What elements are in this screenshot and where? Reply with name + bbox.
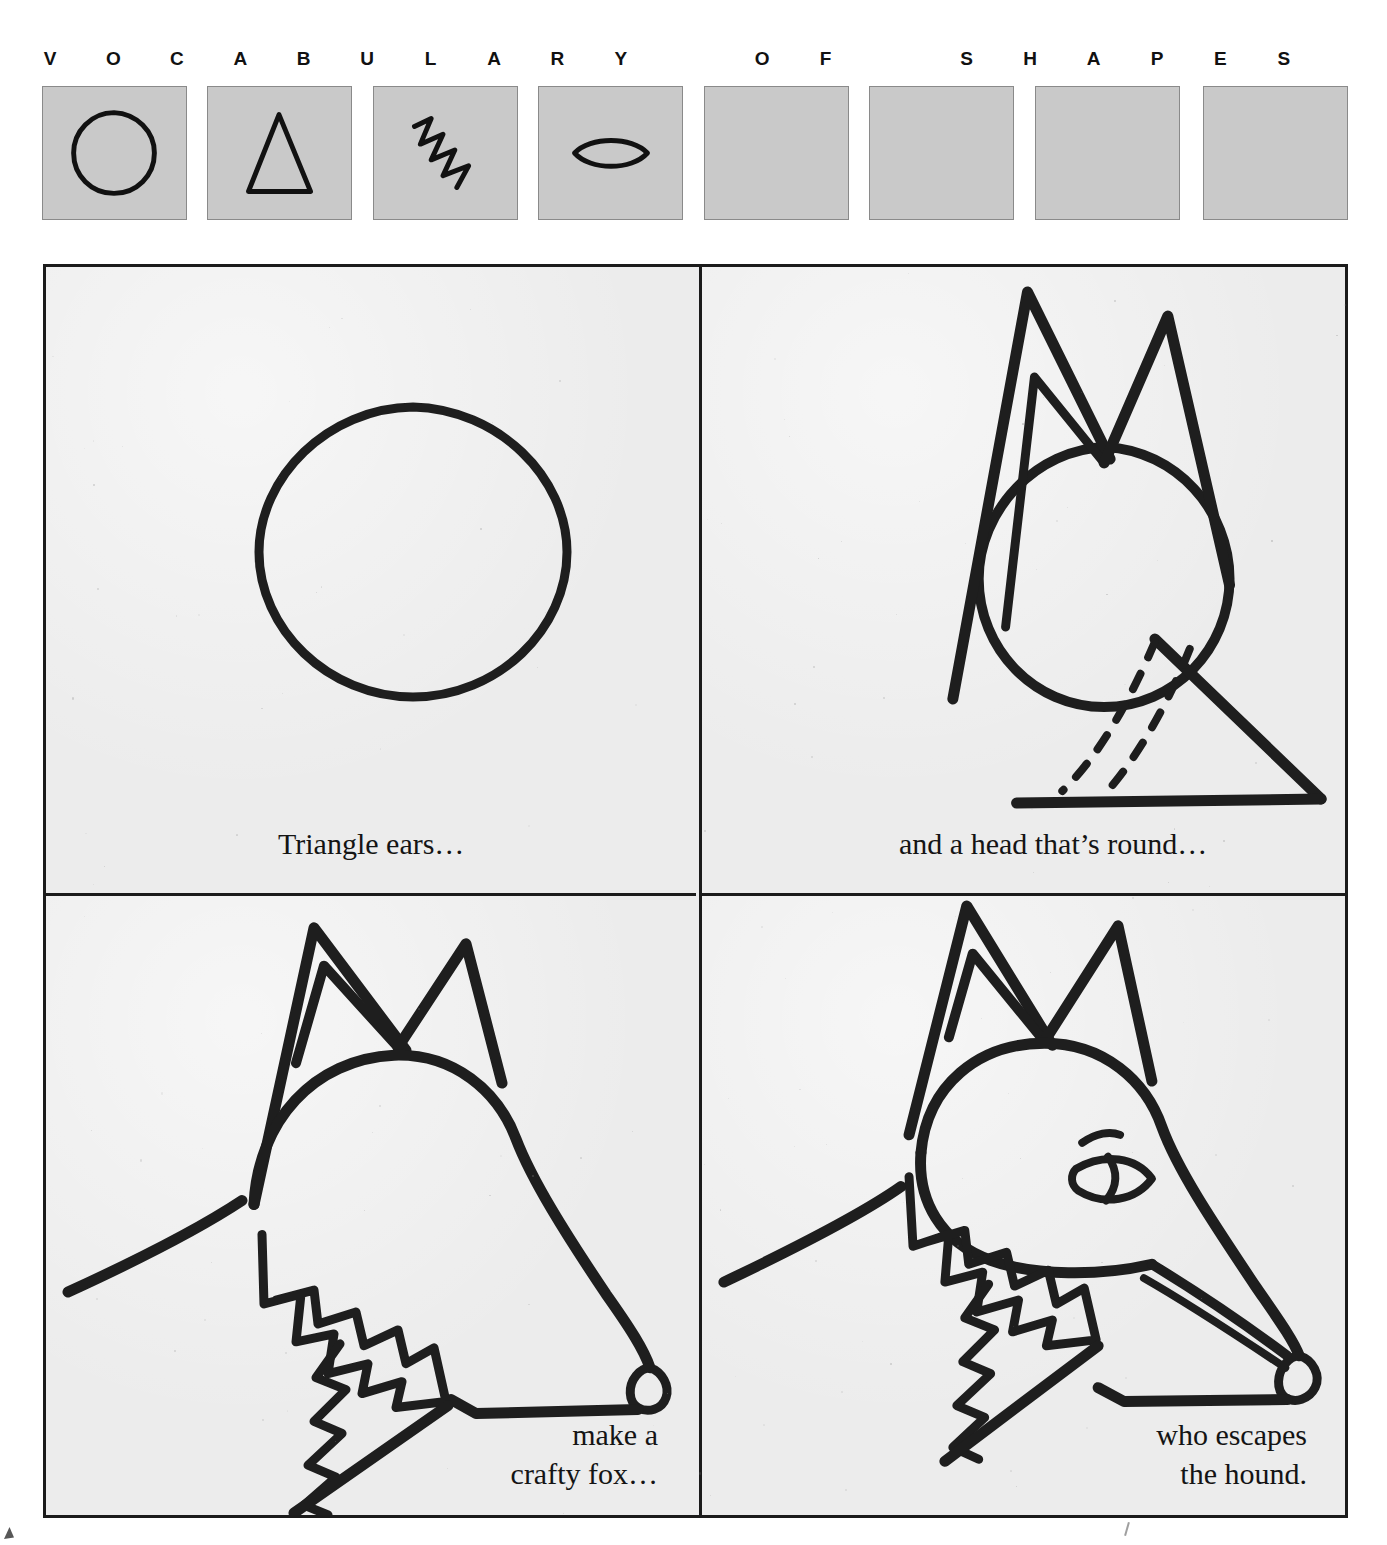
panel-crafty-fox: make a crafty fox… <box>46 893 696 1515</box>
header-letter: B <box>292 48 316 70</box>
stray-pencil-mark <box>1124 1522 1130 1536</box>
header-letter: R <box>545 48 569 70</box>
paper-speck <box>1022 423 1023 424</box>
header-letter: S <box>955 48 979 70</box>
header-letter: E <box>1208 48 1232 70</box>
paper-speck <box>1271 540 1272 541</box>
paper-speck <box>704 830 706 832</box>
shape-box-empty-6 <box>1035 86 1180 220</box>
paper-speck <box>492 422 493 423</box>
paper-speck <box>93 484 95 486</box>
header-letter: H <box>1018 48 1042 70</box>
paper-speck <box>784 419 785 420</box>
paper-speck <box>704 1164 705 1165</box>
shape-box-lens-3 <box>538 86 683 220</box>
header-letter: O <box>750 48 774 70</box>
paper-speck <box>500 1155 502 1157</box>
empty-shape-icon <box>870 87 1013 219</box>
paper-speck <box>890 1363 892 1365</box>
paper-speck <box>1050 972 1051 973</box>
paper-speck <box>1010 1470 1012 1472</box>
paper-speck <box>699 1472 701 1474</box>
header-letter: A <box>482 48 506 70</box>
paper-speck <box>1033 872 1034 873</box>
paper-speck <box>957 1245 959 1247</box>
paper-speck <box>480 528 482 530</box>
panel-escaping-fox: who escapes the hound. <box>699 893 1345 1515</box>
paper-speck <box>981 1018 982 1019</box>
paper-speck <box>815 1260 817 1262</box>
paper-speck <box>1164 365 1165 366</box>
paper-speck <box>811 756 813 758</box>
paper-speck <box>72 697 74 699</box>
paper-speck <box>962 1178 963 1179</box>
zigzag-shape-icon <box>374 87 517 219</box>
empty-shape-icon <box>1204 87 1347 219</box>
paper-speck <box>236 834 238 836</box>
paper-speck <box>559 380 561 382</box>
paper-speck <box>1157 560 1158 561</box>
empty-shape-icon <box>705 87 848 219</box>
paper-speck <box>97 588 99 590</box>
lens-shape-icon <box>539 87 682 219</box>
paper-speck <box>1344 304 1346 306</box>
paper-speck <box>335 1441 336 1442</box>
paper-speck <box>403 634 405 636</box>
paper-speck <box>202 1148 203 1149</box>
paper-speck <box>91 1130 92 1131</box>
paper-speck <box>735 1376 736 1377</box>
paper-speck <box>528 825 530 827</box>
circle-drawing <box>46 267 696 893</box>
paper-speck <box>528 1304 530 1306</box>
paper-speck <box>1209 886 1210 887</box>
circle-shape-icon <box>43 87 186 219</box>
paper-speck <box>1073 1317 1075 1319</box>
paper-speck <box>794 703 795 704</box>
header-letter: P <box>1145 48 1169 70</box>
panel-caption: Triangle ears… <box>278 825 464 863</box>
triangle-shape-icon <box>208 87 351 219</box>
paper-speck <box>261 708 263 710</box>
header-letter: F <box>814 48 838 70</box>
shape-box-empty-4 <box>704 86 849 220</box>
paper-speck <box>789 436 790 437</box>
paper-speck <box>1336 335 1338 337</box>
head-ears-snout-drawing <box>702 267 1345 893</box>
header-letter: S <box>1272 48 1296 70</box>
paper-speck <box>364 1210 365 1211</box>
paper-speck <box>174 1350 176 1352</box>
paper-speck <box>818 558 819 559</box>
paper-speck <box>841 541 842 542</box>
header-letter: V <box>38 48 62 70</box>
panel-caption: who escapes the hound. <box>1156 1416 1307 1493</box>
header-letter: A <box>228 48 252 70</box>
paper-speck <box>649 1446 651 1448</box>
header-letter: Y <box>609 48 633 70</box>
paper-speck <box>1056 520 1058 522</box>
paper-speck <box>84 916 85 917</box>
shape-box-empty-5 <box>869 86 1014 220</box>
paper-speck <box>379 1105 381 1107</box>
paper-speck <box>1036 569 1037 570</box>
paper-speck <box>1132 897 1134 899</box>
vocabulary-header: VOCABULARYOFSHAPES <box>42 48 1348 76</box>
shape-box-triangle-1 <box>207 86 352 220</box>
header-letter: L <box>419 48 443 70</box>
paper-speck <box>720 1209 721 1210</box>
paper-speck <box>140 1159 142 1161</box>
paper-speck <box>841 1391 843 1393</box>
paper-speck <box>1013 1326 1014 1327</box>
comic-panel-grid: Triangle ears… and a head that’s round… <box>43 264 1348 1518</box>
paper-speck <box>785 978 786 979</box>
paper-speck <box>799 1089 801 1091</box>
paper-speck <box>290 1065 291 1066</box>
shape-box-zigzag-2 <box>373 86 518 220</box>
paper-speck <box>261 1033 262 1034</box>
empty-shape-icon <box>1036 87 1179 219</box>
shape-box-empty-7 <box>1203 86 1348 220</box>
paper-speck <box>763 1424 765 1426</box>
paper-speck <box>537 667 538 668</box>
panel-circle-head: Triangle ears… <box>46 267 696 893</box>
shape-box-circle-0 <box>42 86 187 220</box>
header-letter: U <box>355 48 379 70</box>
